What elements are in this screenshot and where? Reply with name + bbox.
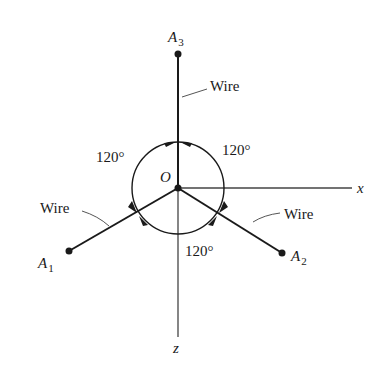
point-a2 <box>279 250 286 257</box>
wire-label-a1: Wire <box>40 201 69 216</box>
angle-label-bottom: 120° <box>185 244 214 259</box>
label-a3-name: A <box>168 29 177 45</box>
label-a3-sub: 3 <box>178 36 184 48</box>
leader-line-a3 <box>182 89 207 97</box>
label-a1-sub: 1 <box>48 262 54 274</box>
label-a2-sub: 2 <box>301 255 307 267</box>
point-a3 <box>175 51 182 58</box>
diagram-canvas <box>0 0 384 375</box>
arrow-icon <box>180 142 192 147</box>
label-a1: A1 <box>38 256 54 271</box>
label-a2-name: A <box>291 248 300 264</box>
leader-line-a1 <box>82 211 109 226</box>
wire-label-a3: Wire <box>210 79 239 94</box>
point-a1 <box>66 248 73 255</box>
x-axis-label: x <box>357 181 364 196</box>
arrow-icon <box>164 142 176 147</box>
z-axis-label: z <box>173 341 179 356</box>
angle-label-upper-left: 120° <box>96 150 125 165</box>
label-a3: A3 <box>168 30 184 45</box>
wire-label-a2: Wire <box>284 207 313 222</box>
three-wire-diagram: A3 A1 A2 O x z Wire Wire Wire 120° 120° … <box>0 0 384 375</box>
leader-line-a2 <box>253 213 280 222</box>
label-a2: A2 <box>291 249 307 264</box>
label-a1-name: A <box>38 255 47 271</box>
origin-point <box>175 185 182 192</box>
wire-a1 <box>69 188 178 251</box>
origin-label: O <box>160 170 171 185</box>
angle-label-upper-right: 120° <box>222 143 251 158</box>
